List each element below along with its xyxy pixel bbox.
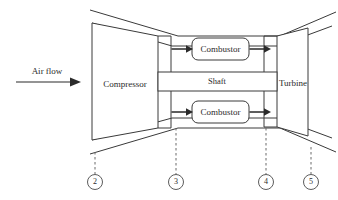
air-flow-arrowhead (70, 78, 81, 87)
compressor-to-combustor-lower (172, 108, 193, 116)
station-leaders (95, 128, 311, 174)
compressor-label: Compressor (103, 79, 147, 89)
station-marker-5[interactable]: 5 (304, 175, 319, 190)
combustor-lower[interactable]: Combustor (192, 101, 249, 123)
station-marker-3[interactable]: 3 (169, 175, 184, 190)
combustor-lower-label: Combustor (200, 107, 240, 117)
compressor-block[interactable]: Compressor (92, 23, 158, 140)
combustor-upper-label: Combustor (200, 44, 240, 54)
turbine-block[interactable]: Turbine (277, 28, 308, 136)
combustor-upper[interactable]: Combustor (192, 38, 249, 60)
diagram-canvas: Compressor Turbine Shaft Combustor Combu… (0, 0, 338, 200)
shaft-band[interactable]: Shaft (158, 72, 277, 91)
turbine-label: Turbine (279, 78, 307, 88)
station-label-2: 2 (93, 177, 97, 186)
station-label-3: 3 (174, 177, 178, 186)
station-marker-4[interactable]: 4 (259, 175, 274, 190)
station-label-5: 5 (309, 177, 313, 186)
combustor-lower-to-turbine (250, 108, 271, 116)
station-marker-2[interactable]: 2 (88, 175, 103, 190)
engine-schematic: Compressor Turbine Shaft Combustor Combu… (0, 0, 338, 200)
shaft-label: Shaft (208, 76, 227, 86)
air-flow-indicator: Air flow (16, 66, 81, 86)
station-label-4: 4 (264, 177, 268, 186)
air-flow-label: Air flow (32, 66, 63, 76)
